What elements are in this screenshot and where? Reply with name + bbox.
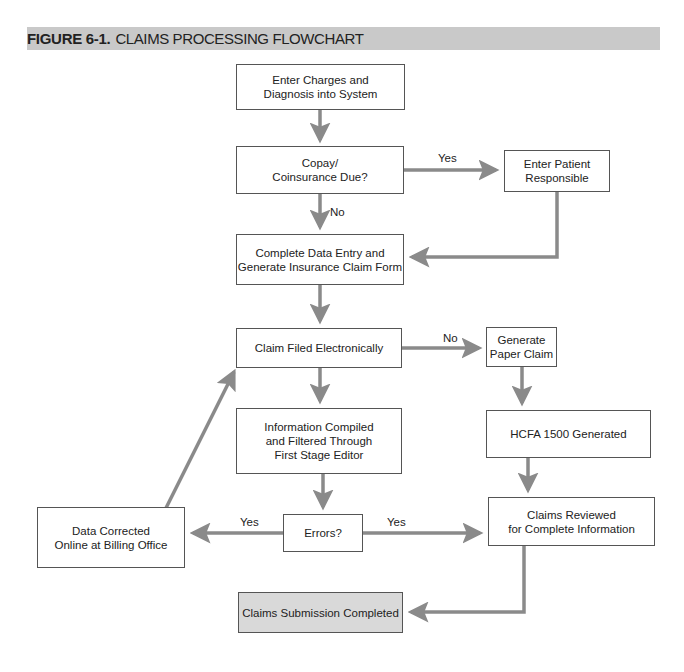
arrow-patient-to-complete	[412, 192, 557, 257]
node-complete-data-entry: Complete Data Entry and Generate Insuran…	[236, 234, 404, 285]
node-errors: Errors?	[283, 514, 363, 552]
label-errors-yes-right: Yes	[387, 516, 406, 528]
label-errors-yes-left: Yes	[240, 516, 259, 528]
node-enter-charges: Enter Charges and Diagnosis into System	[236, 64, 405, 110]
arrow-corrected-to-filed	[162, 372, 234, 516]
label-copay-no: No	[330, 206, 345, 218]
label-copay-yes: Yes	[438, 152, 457, 164]
node-hcfa-generated: HCFA 1500 Generated	[486, 410, 651, 458]
node-claims-submission-completed: Claims Submission Completed	[238, 592, 403, 633]
node-copay-due: Copay/ Coinsurance Due?	[236, 146, 404, 194]
node-generate-paper-claim: Generate Paper Claim	[486, 327, 557, 367]
node-data-corrected: Data Corrected Online at Billing Office	[37, 507, 185, 568]
node-claims-reviewed: Claims Reviewed for Complete Information	[488, 497, 655, 546]
node-claim-filed-electronically: Claim Filed Electronically	[236, 328, 402, 368]
node-information-compiled: Information Compiled and Filtered Throug…	[236, 408, 402, 474]
arrow-reviewed-to-completed	[411, 546, 524, 612]
node-enter-patient-responsible: Enter Patient Responsible	[504, 150, 610, 192]
label-electronic-no: No	[443, 332, 458, 344]
